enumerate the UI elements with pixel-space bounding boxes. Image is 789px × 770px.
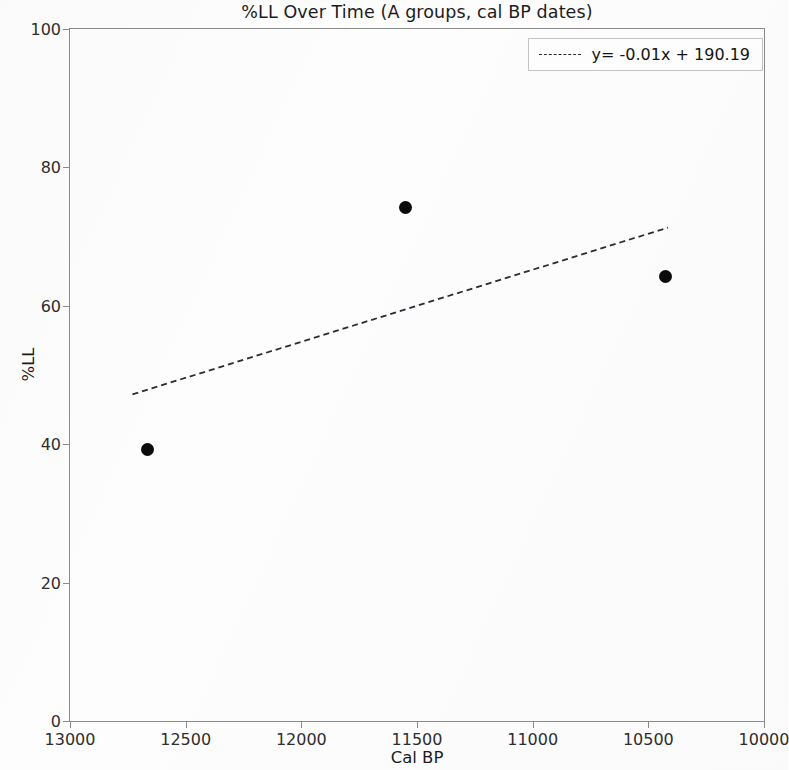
data-point [399, 201, 412, 214]
x-tick-label: 11500 [392, 730, 443, 749]
x-tick-label: 13000 [45, 730, 96, 749]
y-tick-mark [63, 444, 70, 445]
y-tick-label: 0 [51, 712, 61, 731]
x-tick-mark [533, 721, 534, 728]
y-tick-label: 40 [41, 435, 61, 454]
y-tick-mark [63, 29, 70, 30]
x-tick-mark [70, 721, 71, 728]
legend-entry-label: y= -0.01x + 190.19 [592, 45, 750, 64]
y-axis-label: %LL [19, 325, 38, 405]
y-tick-label: 100 [30, 20, 61, 39]
data-point [141, 443, 154, 456]
chart-title: %LL Over Time (A groups, cal BP dates) [69, 2, 765, 22]
x-tick-mark [186, 721, 187, 728]
y-tick-label: 20 [41, 573, 61, 592]
y-tick-mark [63, 721, 70, 722]
x-tick-mark [301, 721, 302, 728]
y-tick-mark [63, 306, 70, 307]
regression-trendline [132, 228, 668, 395]
x-tick-label: 10500 [623, 730, 674, 749]
y-tick-label: 60 [41, 296, 61, 315]
plot-area: y= -0.01x + 190.19 020406080100130001250… [69, 28, 765, 722]
y-tick-mark [63, 583, 70, 584]
data-layer [70, 29, 764, 721]
y-tick-label: 80 [41, 158, 61, 177]
x-axis-label: Cal BP [69, 748, 765, 767]
x-tick-mark [764, 721, 765, 728]
x-tick-mark [417, 721, 418, 728]
legend-dashed-line-icon [539, 54, 581, 55]
trendline-layer [70, 29, 764, 721]
y-tick-mark [63, 167, 70, 168]
x-tick-label: 12500 [160, 730, 211, 749]
x-tick-mark [648, 721, 649, 728]
x-tick-label: 12000 [276, 730, 327, 749]
x-tick-label: 10000 [739, 730, 789, 749]
data-point [659, 270, 672, 283]
x-tick-label: 11000 [507, 730, 558, 749]
legend: y= -0.01x + 190.19 [528, 38, 763, 71]
